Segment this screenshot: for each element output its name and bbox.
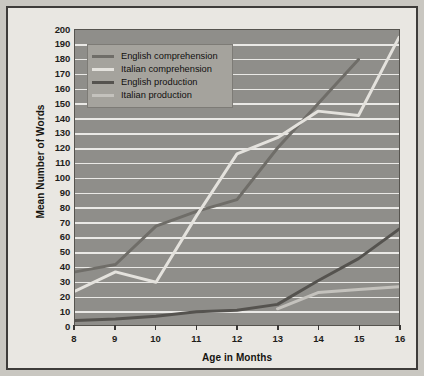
y-axis-tick-label: 50 [14,247,70,256]
x-axis-tick-mark [318,325,320,330]
legend-item-label: English production [121,77,198,88]
x-axis-tick-mark [155,325,157,330]
legend-item: English production [92,76,226,89]
x-axis-tick-mark [73,325,75,330]
x-axis-tick-mark [196,325,198,330]
y-axis-tick-label: 0 [14,322,70,331]
x-axis-tick-mark [277,325,279,330]
x-axis-tick-label: 8 [61,333,87,344]
chart-frame: 2001901801701601501401301201101009080706… [6,6,418,370]
y-axis-tick-label: 10 [14,307,70,316]
x-axis-tick-mark [359,325,361,330]
x-axis-tick-mark [399,325,401,330]
y-axis-tick-label: 30 [14,277,70,286]
legend-item: Italian comprehension [92,63,226,76]
y-axis-tick-label: 180 [14,54,70,63]
y-axis-tick-label: 190 [14,39,70,48]
legend-item: Italian production [92,89,226,102]
legend-swatch-icon [92,68,114,72]
x-axis-tick-label: 15 [346,333,372,344]
legend: English comprehensionItalian comprehensi… [87,44,233,108]
x-axis-tick-label: 9 [102,333,128,344]
x-axis: 8910111213141516 [74,329,400,347]
y-axis-tick-label: 20 [14,292,70,301]
legend-item-label: English comprehension [121,51,218,62]
x-axis-tick-label: 16 [387,333,413,344]
x-axis-tick-label: 12 [224,333,250,344]
series-line [278,287,400,309]
x-axis-title: Age in Months [74,352,400,363]
plot-area: English comprehensionItalian comprehensi… [74,29,400,326]
legend-item-label: Italian comprehension [121,64,212,75]
chart-page: 2001901801701601501401301201101009080706… [0,0,424,376]
y-axis-title: Mean Number of Words [35,82,46,242]
legend-item: English comprehension [92,50,226,63]
y-axis-tick-label: 200 [14,25,70,34]
x-axis-tick-mark [236,325,238,330]
y-axis-tick-label: 170 [14,69,70,78]
x-axis-tick-label: 11 [183,333,209,344]
legend-swatch-icon [92,81,114,85]
legend-item-label: Italian production [121,90,192,101]
legend-swatch-icon [92,94,114,98]
x-axis-tick-label: 10 [143,333,169,344]
x-axis-tick-mark [114,325,116,330]
x-axis-tick-label: 13 [265,333,291,344]
y-axis-tick-label: 40 [14,262,70,271]
x-axis-tick-label: 14 [306,333,332,344]
legend-swatch-icon [92,55,114,59]
